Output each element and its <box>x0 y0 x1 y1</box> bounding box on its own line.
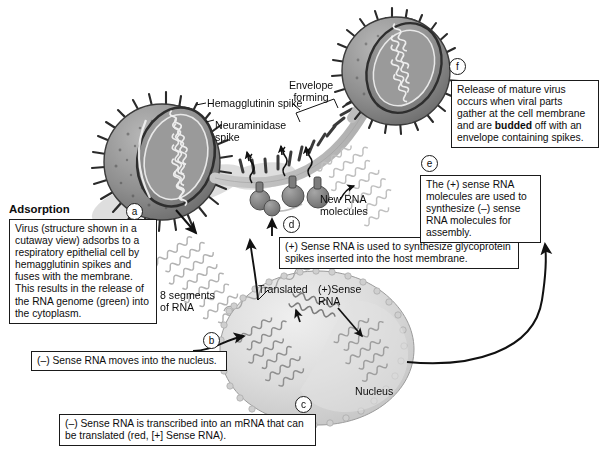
callout-c: (–) Sense RNA is transcribed into an mRN… <box>59 414 316 446</box>
respiratory-epithelial-cell <box>218 257 414 429</box>
label-new-rna-molecules: New RNA molecules <box>320 193 368 218</box>
virus-replication-diagram: Adsorption Virus (structure shown in a c… <box>0 0 607 456</box>
label-envelope-forming: Envelope forming <box>289 79 333 104</box>
callout-f: Release of mature virus occurs when vira… <box>451 80 599 148</box>
label-8-segments-of-rna: 8 segments of RNA <box>160 289 215 314</box>
callout-b: (–) Sense RNA moves into the nucleus. <box>31 351 227 371</box>
marker-f: f <box>449 58 466 75</box>
label-plus-sense-rna: (+)Sense RNA <box>318 283 361 308</box>
callout-f-bold-budded: budded <box>495 120 532 131</box>
marker-b: b <box>203 332 220 349</box>
label-nucleus: Nucleus <box>355 385 393 397</box>
label-translated: Translated <box>258 283 308 295</box>
callout-a: Virus (structure shown in a cutaway view… <box>9 219 157 324</box>
callout-e: The (+) sense RNA molecules are used to … <box>420 175 541 243</box>
label-neuraminidase-spike: Neuraminidase spike <box>215 119 286 144</box>
marker-e: e <box>421 155 438 172</box>
marker-d: d <box>283 216 300 233</box>
marker-c: c <box>295 396 312 413</box>
adsorption-heading: Adsorption <box>9 203 70 215</box>
marker-a: a <box>126 203 143 220</box>
